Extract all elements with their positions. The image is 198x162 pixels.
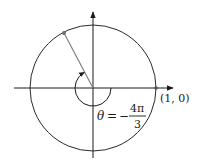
fraction-denominator: 3 [134,118,141,131]
point-label: (1, 0) [160,92,190,105]
unit-circle-diagram: (1, 0) θ = − 4π 3 [0,0,198,162]
terminal-point [62,31,66,35]
theta-symbol: θ [97,109,105,123]
terminal-ray [64,33,93,88]
minus-sign: − [119,109,129,123]
equals-sign: = [107,109,117,123]
point-1-0 [154,86,158,90]
fraction-numerator: 4π [130,102,144,115]
